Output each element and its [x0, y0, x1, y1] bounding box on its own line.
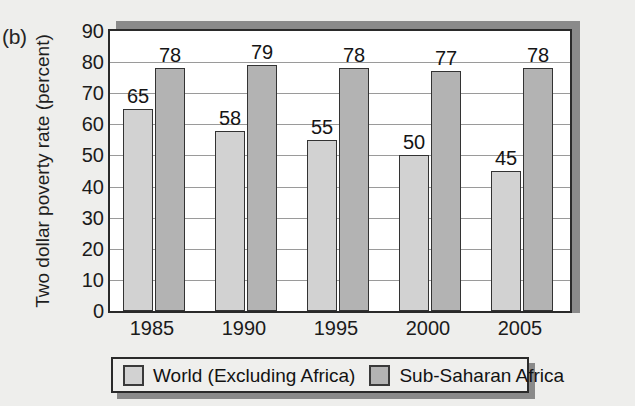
y-axis-tick-label: 30: [56, 208, 104, 228]
y-axis-tick-label: 90: [56, 21, 104, 41]
bar-value-label: 79: [251, 42, 273, 62]
bar-1990-series1: [247, 65, 277, 311]
y-axis-tick-labels: 0102030405060708090: [56, 20, 104, 322]
x-axis-tick-label: 1995: [314, 318, 359, 338]
bar-value-label: 78: [159, 45, 181, 65]
bar-2000-series0: [399, 155, 429, 311]
legend-item[interactable]: World (Excluding Africa): [123, 365, 355, 386]
y-axis-title-container: Two dollar poverty rate (percent): [29, 30, 55, 312]
x-axis-tick-label: 1985: [130, 318, 175, 338]
legend-item[interactable]: Sub-Saharan Africa: [369, 365, 564, 386]
x-axis-tick-label: 1990: [222, 318, 267, 338]
bar-1995-series1: [339, 68, 369, 311]
x-axis-tick-label: 2005: [498, 318, 543, 338]
figure-panel: (b) Two dollar poverty rate (percent) 01…: [0, 0, 635, 406]
y-axis-tick-label: 80: [56, 52, 104, 72]
bar-2005-series1: [523, 68, 553, 311]
bar-2000-series1: [431, 71, 461, 311]
legend-label: Sub-Saharan Africa: [399, 366, 564, 385]
panel-letter: (b): [2, 26, 27, 47]
bar-value-label: 77: [435, 48, 457, 68]
bar-value-label: 78: [527, 45, 549, 65]
bar-value-label: 45: [495, 148, 517, 168]
bar-value-label: 55: [311, 117, 333, 137]
y-axis-tick-label: 0: [56, 301, 104, 321]
bar-1985-series0: [123, 109, 153, 311]
y-axis-tick-label: 70: [56, 83, 104, 103]
bar-value-label: 58: [219, 108, 241, 128]
bar-value-label: 78: [343, 45, 365, 65]
legend-label: World (Excluding Africa): [153, 366, 355, 385]
bar-1990-series0: [215, 131, 245, 311]
y-axis-tick-label: 40: [56, 177, 104, 197]
y-axis-tick-label: 60: [56, 114, 104, 134]
bar-2005-series0: [491, 171, 521, 311]
legend-swatch-icon: [123, 365, 144, 386]
plot-area: 65785879557850774578: [110, 31, 570, 311]
y-axis-tick-label: 20: [56, 239, 104, 259]
plot-frame: 65785879557850774578: [108, 29, 572, 313]
y-axis-tick-label: 50: [56, 145, 104, 165]
bar-value-label: 65: [127, 86, 149, 106]
x-axis-tick-labels: 19851990199520002005: [108, 318, 572, 346]
legend-swatch-icon: [369, 365, 390, 386]
y-axis-title: Two dollar poverty rate (percent): [33, 34, 52, 308]
x-axis-tick-label: 2000: [406, 318, 451, 338]
bar-1995-series0: [307, 140, 337, 311]
chart-legend: World (Excluding Africa)Sub-Saharan Afri…: [111, 357, 529, 393]
bar-1985-series1: [155, 68, 185, 311]
bar-value-label: 50: [403, 132, 425, 152]
y-axis-tick-label: 10: [56, 270, 104, 290]
